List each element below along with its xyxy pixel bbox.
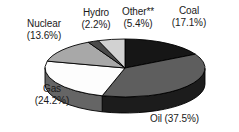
slice-label-nuclear: Nuclear (13.6%)	[14, 18, 74, 41]
slice-label-hydro-value: (2.2%)	[74, 19, 118, 31]
slice-label-other-value: (5.4%)	[114, 18, 162, 30]
slice-label-coal: Coal (17.1%)	[163, 5, 215, 28]
slice-label-other-name: Other**	[122, 6, 154, 17]
slice-label-oil-name: Oil (37.5%)	[150, 113, 199, 124]
slice-label-hydro-name: Hydro	[83, 7, 109, 18]
pie-chart-figure: Nuclear (13.6%) Hydro (2.2%) Other** (5.…	[0, 0, 239, 132]
slice-label-gas: Gas (24.2%)	[26, 83, 78, 106]
slice-label-gas-name: Gas	[43, 83, 61, 94]
slice-label-nuclear-name: Nuclear	[27, 18, 61, 29]
slice-label-hydro: Hydro (2.2%)	[74, 7, 118, 30]
slice-label-coal-name: Coal	[179, 5, 199, 16]
slice-label-oil: Oil (37.5%)	[150, 113, 230, 125]
slice-label-other: Other** (5.4%)	[114, 6, 162, 29]
slice-label-gas-value: (24.2%)	[26, 95, 78, 107]
slice-label-coal-value: (17.1%)	[163, 17, 215, 29]
slice-label-nuclear-value: (13.6%)	[14, 30, 74, 42]
